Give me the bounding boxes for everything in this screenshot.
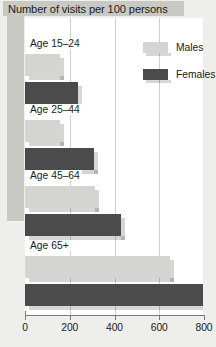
bar-males-0	[25, 54, 60, 76]
legend-label-females: Females	[176, 69, 215, 80]
x-tick-0	[25, 315, 26, 320]
group-label-2: Age 45–64	[28, 170, 82, 181]
legend-item-males: Males	[143, 40, 215, 54]
left-accent-band	[7, 16, 24, 221]
bar-males-1	[25, 120, 60, 142]
x-tick-200	[70, 315, 71, 320]
legend: Males Females	[143, 40, 215, 94]
group-label-0: Age 15–24	[28, 38, 82, 49]
bar-males-2	[25, 186, 95, 208]
bar-females-1	[25, 148, 94, 170]
legend-swatch-females-icon	[143, 69, 168, 80]
legend-swatch-males-icon	[143, 42, 168, 53]
bar-females-2	[25, 214, 121, 236]
x-tick-600	[159, 315, 160, 320]
legend-item-females: Females	[143, 67, 215, 81]
x-tick-label-0: 0	[22, 322, 28, 333]
group-label-1: Age 25–44	[28, 104, 82, 115]
page-title: Number of visits per 100 persons	[3, 3, 168, 15]
x-tick-800	[204, 315, 205, 320]
bar-males-3	[25, 256, 170, 278]
chart-title-banner: Number of visits per 100 persons	[3, 1, 184, 16]
x-tick-400	[115, 315, 116, 320]
x-tick-label-200: 200	[61, 322, 78, 333]
x-tick-label-400: 400	[106, 322, 123, 333]
bar-females-3	[25, 284, 208, 306]
bar-females-0	[25, 82, 78, 104]
chart-page: Number of visits per 100 persons Age 15–…	[0, 0, 216, 347]
x-tick-label-600: 600	[151, 322, 168, 333]
legend-label-males: Males	[176, 42, 203, 53]
group-label-3: Age 65+	[28, 240, 71, 251]
x-tick-label-800: 800	[195, 322, 212, 333]
